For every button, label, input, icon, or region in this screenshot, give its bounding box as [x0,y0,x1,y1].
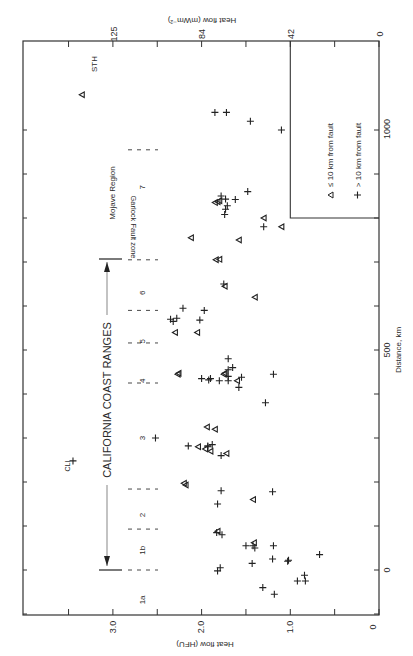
plus-point [249,560,256,567]
triangle-point [183,482,188,488]
region-label-5: 5 [138,338,147,343]
plus-point [271,591,278,598]
mwm-axis-labels: 0 42 84 125 Heat flow (mWm⁻²) [109,16,385,42]
triangle-point [204,424,209,430]
plus-point [301,572,308,579]
plus-point [205,376,212,383]
triangle-point [195,330,200,336]
hfu-tick-3: 3.0 [108,621,118,634]
heat-flow-chart: 0 1.0 2.0 3.0 Heat flow (HFU) 0 42 84 12… [0,0,413,656]
mwm-tick-0: 0 [375,31,385,36]
region-label-1a: 1a [138,595,147,604]
plus-point [222,206,229,213]
distance-tick-1000: 1000 [382,119,392,139]
plus-point [235,384,242,391]
plus-point [222,196,229,203]
cli-label: CLI [64,461,71,472]
mwm-tick-125: 125 [109,26,119,41]
plus-point [270,542,277,549]
region-label-7: 7 [138,184,147,189]
legend-item-triangle: ≤ 10 km from fault [326,122,335,198]
garlock-label: Garlock Fault zone [129,196,138,259]
distance-axis-title: Distance, km [394,327,403,374]
hfu-axis-labels: 0 1.0 2.0 3.0 Heat flow (HFU) [108,621,378,649]
triangle-point [279,224,284,230]
arrow-head-down-icon [104,556,110,566]
triangle-point [212,426,217,432]
plus-point [224,202,231,209]
plus-point [214,501,221,508]
plus-point [216,377,223,384]
region-label-6: 6 [138,290,147,295]
plus-point [262,399,269,406]
legend-label-plus: > 10 km from fault [354,122,363,187]
plus-point [259,584,266,591]
plus-point [294,578,301,585]
triangle-point [79,92,84,98]
plus-point [302,578,309,585]
plus-point [242,542,249,549]
distance-tick-0: 0 [382,567,392,572]
legend-item-plus: > 10 km from fault [354,122,363,198]
triangle-point [188,235,193,241]
region-label-3: 3 [138,435,147,440]
plus-point [270,371,277,378]
triangle-point [236,237,241,243]
plus-point [278,127,285,134]
legend: ≤ 10 km from fault > 10 km from fault [290,122,379,218]
plus-point [316,551,323,558]
plus-point [225,377,232,384]
mwm-tick-42: 42 [286,29,296,39]
arrow-head-up-icon [104,262,110,272]
mwm-axis-title: Heat flow (mWm⁻²) [167,16,236,25]
region-label-4: 4 [138,378,147,383]
plus-icon [354,192,361,199]
plus-point [201,307,208,314]
hfu-tick-2: 2.0 [196,621,206,634]
plus-point [218,193,225,200]
plus-point [179,305,186,312]
hfu-tick-0: 0 [368,624,378,629]
plus-point [207,375,214,382]
plus-point [220,281,227,288]
distance-tick-500: 500 [382,342,392,357]
triangle-point [250,497,255,503]
plus-point [244,188,251,195]
triangle-point [252,294,257,300]
plus-point [185,442,192,449]
plus-point [269,556,276,563]
hfu-axis-title: Heat flow (HFU) [176,640,234,649]
annotations: CALIFORNIA COAST RANGES Garlock Fault zo… [64,56,138,570]
triangle-point [172,330,177,336]
triangle-point [234,378,239,384]
plus-point [152,435,159,442]
triangle-icon [328,192,333,198]
triangle-point [195,444,200,450]
mwm-tick-84: 84 [197,29,207,39]
plus-point [223,109,230,116]
region-labels: 1a1b234567 [138,184,147,604]
plus-point [218,487,225,494]
triangle-point [215,528,220,534]
triangle-point [251,540,256,546]
region-label-1b: 1b [138,545,147,554]
plus-point [221,211,228,218]
mojave-label: Mojave Region [108,166,117,219]
plus-point [196,317,203,324]
hfu-tick-1: 1.0 [285,621,295,634]
legend-label-triangle: ≤ 10 km from fault [326,122,335,187]
coast-ranges-label: CALIFORNIA COAST RANGES [101,322,113,478]
plus-point [269,488,276,495]
plus-point [211,109,218,116]
plus-point [285,557,292,564]
triangle-point [208,448,213,454]
plus-point [232,196,239,203]
triangle-point [261,215,266,221]
plus-point [198,375,205,382]
region-label-2: 2 [138,512,147,517]
plus-point [173,315,180,322]
sth-label: STH [90,56,99,72]
plus-point [247,118,254,125]
plus-point [284,558,291,565]
distance-axis-labels: 0 500 1000 Distance, km [382,119,403,573]
